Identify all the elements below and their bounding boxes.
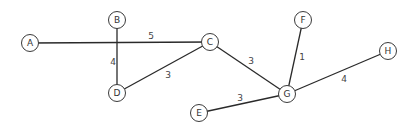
edge-weight-label: 3 [237,93,243,103]
node-label: G [284,89,291,99]
edge-weight-label: 4 [110,57,116,67]
node-label: B [114,15,120,25]
edge-weight-label: 1 [299,52,305,62]
node-label: D [114,88,121,98]
node-label: F [300,15,305,25]
node-label: E [196,108,202,118]
node-a: A [22,35,39,52]
edge-c-g [210,42,287,94]
node-label: A [27,38,34,48]
nodes-layer: ABCDEFGH [22,12,397,122]
node-c: C [202,34,219,51]
node-b: B [109,12,126,29]
edge-weight-label: 5 [148,31,154,41]
edge-weight-label: 3 [165,70,171,80]
node-g: G [279,86,296,103]
edge-d-c [117,42,210,93]
node-e: E [191,105,208,122]
node-h: H [380,43,397,60]
node-label: C [207,37,213,47]
edge-weight-label: 3 [248,56,254,66]
node-f: F [295,12,312,29]
graph-diagram: 5433143 ABCDEFGH [0,0,416,131]
edge-weight-label: 4 [341,74,347,84]
edge-e-g [199,94,287,113]
node-label: H [385,46,392,56]
node-d: D [109,85,126,102]
edge-a-c [30,42,210,43]
